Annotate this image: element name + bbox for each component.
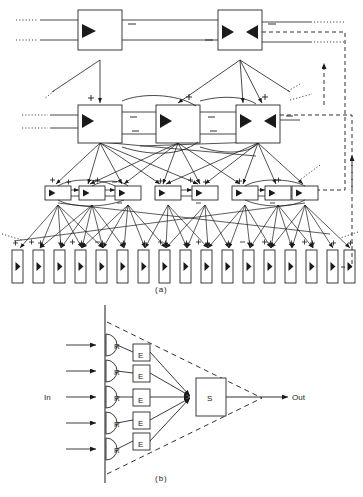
- top-module: [218, 10, 262, 50]
- receptor-bar: [117, 250, 128, 283]
- receptor-bar: [138, 250, 149, 283]
- receptor-bar: [33, 250, 44, 283]
- output-label: Out: [292, 393, 306, 402]
- encoder-label: E: [138, 419, 143, 428]
- processing-cell: [45, 186, 71, 200]
- receptor-label: R: [114, 420, 120, 429]
- middle-module: [78, 105, 122, 143]
- receptor-bar: [96, 250, 107, 283]
- receptor-label: R: [114, 446, 120, 455]
- receptor-bar: [75, 250, 86, 283]
- top-module-row: [78, 10, 262, 50]
- top-module: [78, 10, 122, 50]
- receptor-label: R: [114, 368, 120, 377]
- cell-row: [45, 186, 318, 200]
- continuation-dots: [2, 232, 358, 240]
- receptor-label: R: [114, 342, 120, 351]
- middle-module: [236, 105, 280, 143]
- sign-marks-row1: [13, 240, 353, 246]
- processing-cell: [115, 186, 141, 200]
- receptor-bar: [264, 250, 275, 283]
- cell-to-module-edges: [56, 142, 303, 184]
- receptor-bar: [327, 250, 338, 283]
- input-label: In: [44, 393, 51, 402]
- top-continuation-dashes: [16, 20, 344, 42]
- receptor-label: R: [114, 394, 120, 403]
- dashed-cone: [107, 322, 262, 474]
- encoder-to-summer-edges: [150, 352, 190, 441]
- panel-b-receptive-field: [66, 305, 288, 483]
- encoder-label: E: [138, 351, 143, 360]
- receptor-bar: [12, 250, 23, 283]
- receptor-bar: [344, 250, 355, 283]
- receptor-fan-edges: [14, 203, 350, 248]
- receptor-bar: [285, 250, 296, 283]
- figure-root: R R R R R E E E E E S In Out (a) (b): [0, 0, 363, 497]
- figure-canvas: R R R R R E E E E E S In Out: [0, 0, 363, 497]
- receptor-bar: [306, 250, 317, 283]
- encoder-label: E: [138, 396, 143, 405]
- processing-cell: [232, 186, 258, 200]
- panel-b-text: R R R R R E E E E E S In Out: [44, 342, 306, 455]
- panel-a-hierarchy: [2, 10, 358, 283]
- processing-cell: [292, 186, 318, 200]
- cell-continuation-dots: [300, 165, 320, 180]
- caption-panel-a: (a): [155, 285, 168, 294]
- input-arrows: [66, 345, 96, 449]
- caption-panel-b: (b): [155, 474, 168, 483]
- receptor-bar: [159, 250, 170, 283]
- receptor-bar: [222, 250, 233, 283]
- receptor-bar: [180, 250, 191, 283]
- summer-label: S: [207, 394, 212, 403]
- processing-cell: [79, 186, 105, 200]
- processing-cell: [192, 186, 218, 200]
- processing-cell: [155, 186, 181, 200]
- processing-cell: [265, 186, 291, 200]
- encoder-label: E: [138, 372, 143, 381]
- receptor-bar: [54, 250, 65, 283]
- receptor-row: [12, 250, 355, 283]
- middle-module: [156, 105, 200, 143]
- receptor-bar: [201, 250, 212, 283]
- encoder-label: E: [138, 440, 143, 449]
- receptor-bar: [243, 250, 254, 283]
- middle-module-row: [78, 105, 280, 143]
